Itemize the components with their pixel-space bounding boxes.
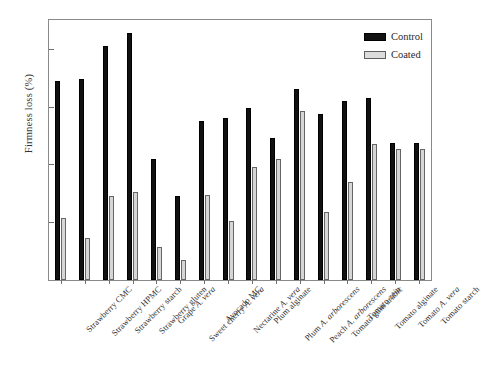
bar-coated <box>157 247 162 280</box>
bar-control <box>79 79 84 280</box>
legend-item-coated: Coated <box>364 47 423 62</box>
bar-control <box>151 159 156 280</box>
bar-control <box>390 143 395 280</box>
bar-coated <box>252 167 257 280</box>
bar-coated <box>85 238 90 280</box>
plot-frame: 20406080 Control Coated <box>48 19 432 281</box>
chart-legend: Control Coated <box>364 29 423 65</box>
bar-control <box>294 89 299 280</box>
x-axis-tick-label: Avocado MC <box>223 284 263 324</box>
bar-coated <box>300 111 305 280</box>
y-axis-tick <box>49 222 54 223</box>
bar-control <box>103 46 108 280</box>
bar-control <box>127 33 132 280</box>
bar-coated <box>396 149 401 280</box>
legend-label-control: Control <box>391 29 423 44</box>
y-axis-tick <box>49 164 54 165</box>
bar-control <box>342 101 347 280</box>
bar-control <box>175 196 180 280</box>
bar-coated <box>61 218 66 280</box>
bar-control <box>55 81 60 280</box>
bar-control <box>199 121 204 280</box>
legend-swatch-coated-icon <box>364 51 386 59</box>
bar-control <box>318 114 323 280</box>
bar-control <box>414 143 419 280</box>
bar-control <box>366 98 371 280</box>
bar-coated <box>324 212 329 280</box>
legend-swatch-control-icon <box>364 33 386 41</box>
bar-control <box>270 138 275 280</box>
bar-coated <box>133 192 138 280</box>
bar-coated <box>372 144 377 280</box>
legend-item-control: Control <box>364 29 423 44</box>
y-axis-tick <box>49 49 54 50</box>
bar-coated <box>276 159 281 280</box>
bar-coated <box>420 149 425 280</box>
y-axis-title: Firmness loss (%) <box>23 24 34 204</box>
bar-control <box>246 108 251 280</box>
y-axis-tick <box>49 107 54 108</box>
bar-coated <box>348 182 353 280</box>
bar-coated <box>205 195 210 280</box>
bar-coated <box>181 260 186 280</box>
bar-control <box>223 118 228 280</box>
x-axis-tick-labels: Strawberry CMCStrawberry HPMCStrawberry … <box>48 284 432 370</box>
bar-coated <box>109 196 114 280</box>
legend-label-coated: Coated <box>391 47 421 62</box>
bar-coated <box>229 221 234 280</box>
